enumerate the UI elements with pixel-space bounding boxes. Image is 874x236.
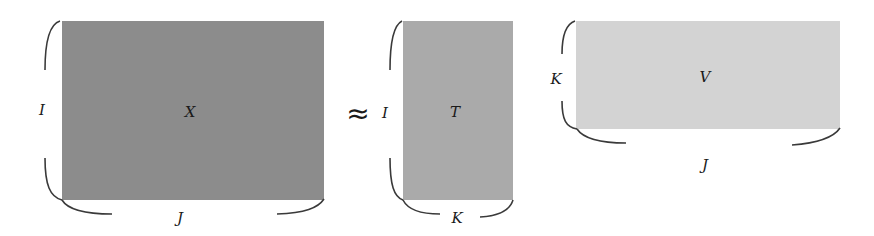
matrix-v-rows-label: K <box>550 70 561 88</box>
brace-v-cols <box>577 128 840 145</box>
brace-x-rows <box>45 21 62 200</box>
brace-v-rows <box>562 21 577 129</box>
approx-symbol: ≈ <box>346 97 369 130</box>
matrix-x-cols-label: J <box>177 209 183 227</box>
matrix-t-cols-label: K <box>451 209 462 227</box>
matrix-t-rows-label: I <box>382 104 388 122</box>
matrix-x-rows-label: I <box>39 101 45 119</box>
matrix-x-label: X <box>185 103 196 121</box>
brace-x-cols <box>62 199 324 214</box>
dimension-braces <box>0 0 874 236</box>
brace-t-rows <box>390 21 403 200</box>
matrix-v-cols-label: J <box>702 156 708 174</box>
matrix-t-label: T <box>450 103 460 121</box>
matrix-v-label: V <box>700 68 711 86</box>
